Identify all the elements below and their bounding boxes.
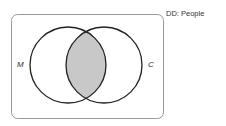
venn-diagram — [0, 0, 226, 126]
domain-label: DD: People — [166, 9, 204, 18]
set-label-m: M — [17, 60, 24, 69]
set-label-c: C — [148, 60, 154, 69]
